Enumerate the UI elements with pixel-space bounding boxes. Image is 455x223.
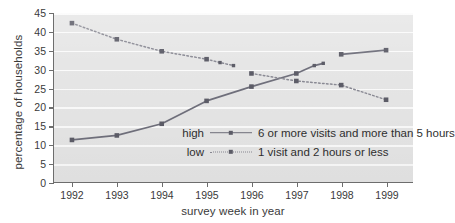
y-tick-label: 5 xyxy=(40,158,46,170)
x-tick-label: 1994 xyxy=(150,189,173,201)
x-tick-label: 1992 xyxy=(60,189,83,201)
y-tick-label: 45 xyxy=(34,7,46,19)
legend-label: 1 visit and 2 hours or less xyxy=(258,146,388,158)
series-line-low xyxy=(251,73,386,99)
legend-line-sample xyxy=(210,127,252,139)
legend-sample-marker xyxy=(229,130,233,134)
legend-key: low xyxy=(170,146,204,158)
data-point-low xyxy=(204,57,209,62)
data-point-high xyxy=(115,133,120,138)
data-point-high xyxy=(294,71,299,76)
data-point-low xyxy=(232,64,235,67)
data-point-low xyxy=(159,49,164,54)
data-point-low xyxy=(294,79,299,84)
x-tick-label: 1999 xyxy=(375,189,398,201)
x-tick-label: 1995 xyxy=(195,189,218,201)
x-axis-title: survey week in year xyxy=(53,205,413,217)
data-point-low xyxy=(249,71,254,76)
data-point-high xyxy=(249,84,254,89)
x-tick-mark xyxy=(342,182,343,187)
y-tick-label: 30 xyxy=(34,64,46,76)
data-point-high xyxy=(159,121,164,126)
series-line-high xyxy=(341,50,386,54)
data-point-high xyxy=(384,48,389,53)
x-tick-label: 1996 xyxy=(240,189,263,201)
series-line-low xyxy=(72,23,234,65)
x-tick-mark xyxy=(297,182,298,187)
y-tick-label: 0 xyxy=(40,177,46,189)
y-axis-title: percentage of households xyxy=(12,22,24,182)
x-tick-mark xyxy=(162,182,163,187)
x-tick-mark xyxy=(117,182,118,187)
x-tick-label: 1997 xyxy=(285,189,308,201)
plot-area: 051015202530354045 199219931994199519961… xyxy=(53,13,413,183)
x-tick-label: 1993 xyxy=(105,189,128,201)
legend-sample-marker xyxy=(229,149,233,153)
data-point-low xyxy=(384,97,389,102)
y-tick-label: 15 xyxy=(34,120,46,132)
x-tick-mark xyxy=(72,182,73,187)
y-tick-label: 20 xyxy=(34,101,46,113)
data-point-high xyxy=(339,52,344,57)
data-point-high xyxy=(70,138,75,143)
x-tick-mark xyxy=(252,182,253,187)
y-tick-label: 35 xyxy=(34,45,46,57)
data-point-low xyxy=(218,61,221,64)
legend-key: high xyxy=(170,127,204,139)
data-point-low xyxy=(70,21,75,26)
data-point-high xyxy=(313,64,316,67)
data-point-low xyxy=(115,37,120,42)
legend-line-sample xyxy=(210,146,252,158)
legend-row: low1 visit and 2 hours or less xyxy=(170,142,455,161)
y-tick-mark xyxy=(49,183,54,184)
y-tick-label: 40 xyxy=(34,26,46,38)
x-tick-label: 1998 xyxy=(330,189,353,201)
legend-row: high6 or more visits and more than 5 hou… xyxy=(170,123,455,142)
y-tick-label: 25 xyxy=(34,83,46,95)
x-tick-mark xyxy=(207,182,208,187)
chart-legend: high6 or more visits and more than 5 hou… xyxy=(170,123,455,161)
x-tick-mark xyxy=(387,182,388,187)
legend-label: 6 or more visits and more than 5 hours xyxy=(258,127,455,139)
y-tick-label: 10 xyxy=(34,139,46,151)
data-point-low xyxy=(339,83,344,88)
data-point-high xyxy=(322,62,325,65)
data-point-high xyxy=(204,99,209,104)
